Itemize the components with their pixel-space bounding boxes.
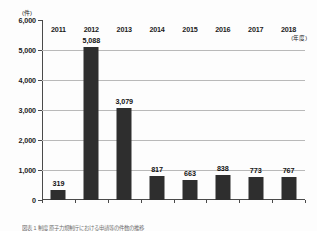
y-tick-label: 0 [32,196,36,205]
y-tick-label: 6,000 [19,16,37,25]
x-tick-mark [305,200,306,203]
x-tick-label: 2011 [51,25,66,34]
bar-value-label: 773 [250,166,262,175]
bar-value-label: 767 [283,166,295,175]
x-tick-mark [42,200,43,203]
x-tick-label: 2018 [281,25,296,34]
bar-value-label: 838 [217,164,229,173]
x-tick-label: 2016 [215,25,230,34]
bar[interactable] [51,190,66,200]
bar-slot: 663 [174,20,207,200]
chart-figure: (件) 01,0002,0003,0004,0005,0006,000 3195… [0,0,317,231]
bar[interactable] [117,108,132,200]
y-tick-label: 2,000 [19,136,37,145]
bar-value-label: 5,088 [83,36,101,45]
bar-slot: 5,088 [75,20,108,200]
x-tick-mark [239,200,240,203]
bar[interactable] [281,177,296,200]
bar-value-label: 3,079 [115,97,133,106]
plot-area: 01,0002,0003,0004,0005,0006,000 3195,088… [42,20,305,200]
x-tick-mark [206,200,207,203]
y-tick-label: 5,000 [19,46,37,55]
y-tick-label: 4,000 [19,76,37,85]
bar[interactable] [248,177,263,200]
x-tick-label: 2017 [248,25,263,34]
x-tick-mark [141,200,142,203]
bar-slot: 773 [239,20,272,200]
figure-caption: 図表 1 制度 原子力規制庁における申請等の件数の推移 [22,224,145,231]
y-tick-label: 1,000 [19,166,37,175]
x-tick-label: 2015 [182,25,197,34]
bar-slot: 3,079 [108,20,141,200]
bar-slot: 817 [141,20,174,200]
bar[interactable] [150,176,165,201]
x-tick-label: 2013 [117,25,132,34]
bar-value-label: 817 [151,165,163,174]
bar[interactable] [215,175,230,200]
bar[interactable] [182,180,197,200]
bars-group: 3195,0883,079817663838773767 [42,20,305,200]
y-tick-label: 3,000 [19,106,37,115]
x-tick-mark [272,200,273,203]
bar-slot: 767 [272,20,305,200]
x-tick-mark [174,200,175,203]
x-tick-label: 2012 [84,25,99,34]
bar[interactable] [84,47,99,200]
bar-value-label: 663 [184,169,196,178]
x-tick-label: 2014 [149,25,164,34]
x-tick-mark [108,200,109,203]
bar-value-label: 319 [53,179,65,188]
bar-slot: 838 [206,20,239,200]
x-tick-mark [75,200,76,203]
x-axis-title: (年度) [291,34,307,42]
bar-slot: 319 [42,20,75,200]
